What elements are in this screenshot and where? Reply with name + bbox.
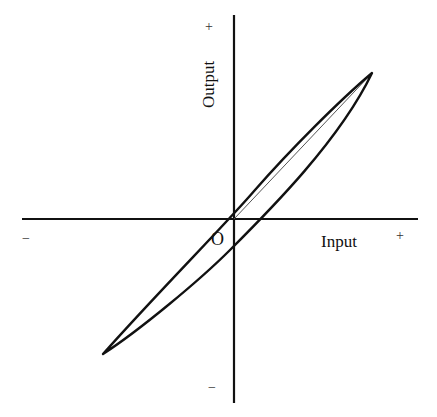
y-axis-label: Output (200, 61, 217, 108)
origin-label: O (211, 230, 224, 248)
hysteresis-diagram (0, 0, 437, 417)
y-axis-positive-sign: + (205, 20, 213, 34)
x-axis-label: Input (321, 233, 357, 250)
x-axis-positive-sign: + (396, 229, 404, 243)
y-axis-negative-sign: − (208, 381, 216, 395)
diagonal-line (234, 73, 372, 219)
x-axis-negative-sign: − (22, 232, 30, 246)
